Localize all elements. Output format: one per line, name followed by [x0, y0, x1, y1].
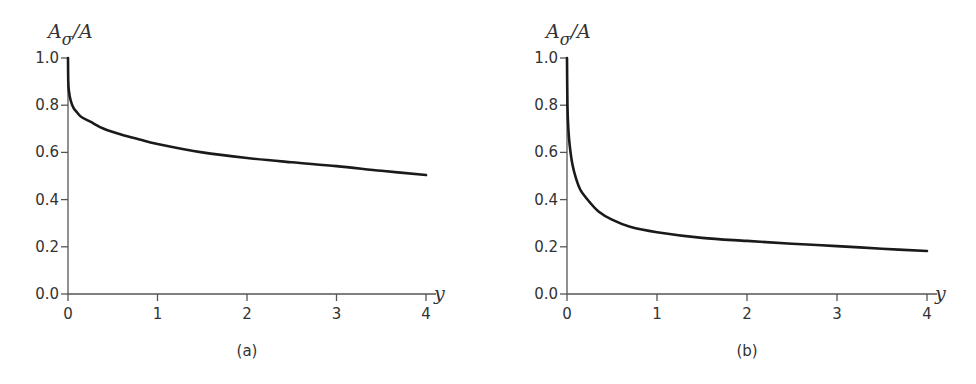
y-tick-label: 0.8	[534, 96, 558, 114]
y-tick-label: 0.0	[35, 285, 59, 303]
axes-b: 012340.00.20.40.60.81.0	[534, 49, 937, 323]
x-tick-label: 1	[153, 305, 163, 323]
chart-canvas: 012340.00.20.40.60.81.0 Aσ/A y (a) 01234…	[0, 0, 976, 384]
x-tick-label: 0	[63, 305, 73, 323]
x-tick-label: 2	[242, 305, 252, 323]
x-tick-label: 1	[652, 305, 662, 323]
y-tick-label: 1.0	[35, 49, 59, 67]
y-tick-label: 0.4	[35, 191, 59, 209]
y-tick-label: 0.0	[534, 285, 558, 303]
panel-label-a: (a)	[237, 342, 258, 360]
chart-panel-b: 012340.00.20.40.60.81.0 Aσ/A y (b)	[534, 20, 946, 360]
x-tick-label: 0	[562, 305, 572, 323]
axes-a: 012340.00.20.40.60.81.0	[35, 49, 436, 323]
y-axis-title-a: Aσ/A	[46, 20, 93, 49]
panel-label-b: (b)	[736, 342, 757, 360]
x-tick-label: 2	[742, 305, 752, 323]
data-curve-a	[68, 58, 426, 175]
y-tick-label: 0.2	[35, 238, 59, 256]
y-tick-label: 0.6	[534, 143, 558, 161]
x-tick-label: 4	[421, 305, 431, 323]
y-axis-title-b: Aσ/A	[544, 20, 591, 49]
x-axis-title-a: y	[433, 282, 445, 304]
x-axis-title-b: y	[934, 282, 946, 304]
y-tick-label: 0.4	[534, 191, 558, 209]
y-tick-label: 0.2	[534, 238, 558, 256]
data-curve-b	[567, 58, 927, 251]
y-tick-label: 0.6	[35, 143, 59, 161]
x-tick-label: 3	[832, 305, 842, 323]
chart-panel-a: 012340.00.20.40.60.81.0 Aσ/A y (a)	[35, 20, 445, 360]
x-tick-label: 4	[922, 305, 932, 323]
y-tick-label: 1.0	[534, 49, 558, 67]
x-tick-label: 3	[332, 305, 342, 323]
y-tick-label: 0.8	[35, 96, 59, 114]
